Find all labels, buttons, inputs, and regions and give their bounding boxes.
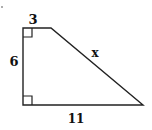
label-top: 3: [28, 12, 37, 27]
stray-dot: [1, 6, 3, 8]
trapezoid-diagram: 3 6 x 11: [0, 0, 152, 130]
label-bottom: 11: [68, 112, 85, 126]
label-left: 6: [9, 54, 18, 69]
right-angle-marker-bottom: [23, 96, 32, 105]
trapezoid-outline: [23, 28, 143, 105]
label-slant: x: [91, 46, 99, 60]
right-angle-marker-top: [23, 28, 32, 37]
